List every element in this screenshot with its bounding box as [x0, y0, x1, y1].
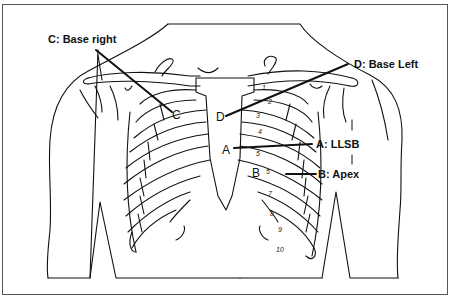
rib-number: 5 [266, 168, 270, 175]
marker-b: B [252, 166, 260, 180]
rib-number: 3 [256, 112, 260, 119]
label-llsb: A: LLSB [316, 138, 359, 150]
pointer-d [226, 64, 348, 116]
rib-number: 4 [258, 128, 262, 135]
rib-number: 5 [256, 150, 260, 157]
label-base-left: D: Base Left [354, 58, 418, 70]
label-base-right: C: Base right [48, 33, 116, 45]
rib-number: 2 [268, 98, 272, 105]
marker-d: D [216, 110, 225, 124]
clavicles [84, 56, 358, 86]
rib-number: 1 [262, 84, 266, 91]
marker-a: A [222, 143, 230, 157]
right-ribs [124, 90, 210, 252]
marker-c: C [172, 108, 181, 122]
pointer-c [96, 50, 172, 112]
rib-number: 9 [278, 226, 282, 233]
rib-number: 8 [270, 210, 274, 217]
rib-number: 7 [268, 190, 272, 197]
pointer-a [234, 144, 312, 148]
label-apex: B: Apex [318, 168, 359, 180]
rib-number: 10 [276, 246, 284, 253]
